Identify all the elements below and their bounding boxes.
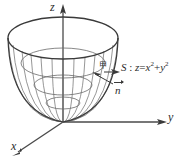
point-mark-label: 甲 — [99, 62, 107, 70]
annotation-arrowheads — [92, 69, 120, 78]
meridian-line — [63, 59, 74, 122]
meridian-line — [52, 59, 63, 122]
meridian-line — [22, 51, 63, 122]
normal-vector-symbol: n — [115, 85, 121, 96]
axes-group — [18, 10, 160, 152]
axis-arrowheads — [12, 4, 167, 156]
x-axis-line — [18, 122, 63, 152]
surface-equation-label: S : z=x2+y2 — [121, 62, 169, 73]
diagram-canvas — [0, 0, 189, 163]
silhouette-right — [63, 38, 118, 122]
x-axis-label: x — [11, 140, 16, 152]
normal-vector-label: n — [115, 85, 121, 96]
paraboloid-diagram: z y x 甲 S : z=x2+y2 n — [0, 0, 189, 163]
silhouette-left — [8, 38, 63, 122]
surface-colon: : — [127, 61, 136, 73]
surface-term2-exponent: 2 — [165, 60, 169, 68]
z-axis-label: z — [50, 1, 55, 13]
y-axis-label: y — [168, 111, 173, 123]
meridian-line — [63, 51, 104, 122]
